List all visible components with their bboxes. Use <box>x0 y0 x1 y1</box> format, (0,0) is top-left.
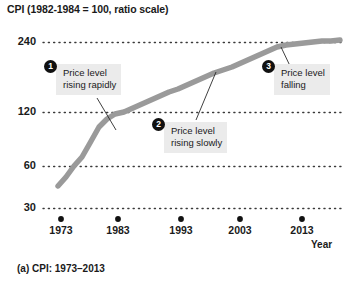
x-tick-dot-1993 <box>178 216 184 222</box>
x-tick-label-1993: 1993 <box>159 224 203 236</box>
annotation-1-line-1: Price level <box>63 67 116 79</box>
annotation-box-2: Price level rising slowly <box>164 122 227 153</box>
annotation-2-line-2: rising slowly <box>171 137 222 149</box>
y-tick-label-120: 120 <box>2 105 36 117</box>
x-tick-marks <box>58 216 305 222</box>
plot-area: 240 120 60 30 1973 1983 1993 2003 2013 Y… <box>0 0 352 284</box>
annotation-badge-1: 1 <box>44 60 57 73</box>
annotation-3-line-1: Price level <box>281 67 325 79</box>
x-tick-label-1973: 1973 <box>39 224 83 236</box>
x-tick-dot-1983 <box>115 216 121 222</box>
annotation-2-line-1: Price level <box>171 125 222 137</box>
x-axis-label-year: Year <box>311 239 332 250</box>
annotation-badge-3: 3 <box>262 60 275 73</box>
annotation-3-line-2: falling <box>281 79 325 91</box>
x-tick-label-2013: 2013 <box>280 224 324 236</box>
annotation-leader-lines <box>97 47 291 130</box>
x-tick-dot-1973 <box>58 216 64 222</box>
x-tick-dot-2013 <box>299 216 305 222</box>
x-tick-dot-2003 <box>237 216 243 222</box>
annotation-badge-2: 2 <box>152 118 165 131</box>
cpi-line-chart-figure: CPI (1982-1984 = 100, ratio scale) <box>0 0 352 284</box>
annotation-box-1: Price level rising rapidly <box>56 64 121 95</box>
x-tick-label-1983: 1983 <box>96 224 140 236</box>
annotation-1-line-2: rising rapidly <box>63 79 116 91</box>
x-tick-label-2003: 2003 <box>218 224 262 236</box>
figure-caption: (a) CPI: 1973–2013 <box>17 263 105 274</box>
y-tick-label-240: 240 <box>2 35 36 47</box>
annotation-box-3: Price level falling <box>274 64 330 95</box>
y-tick-label-30: 30 <box>2 201 36 213</box>
y-tick-label-60: 60 <box>2 159 36 171</box>
